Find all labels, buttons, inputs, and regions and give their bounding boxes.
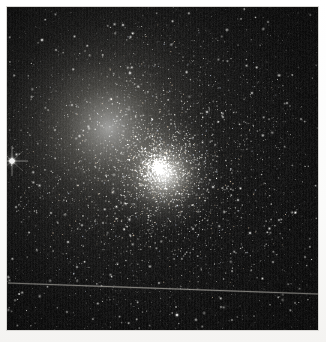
image-viewport: Dense globular star cluster with a brill… — [0, 0, 326, 342]
star-field-canvas — [7, 7, 318, 330]
astronomical-plate — [7, 7, 318, 330]
